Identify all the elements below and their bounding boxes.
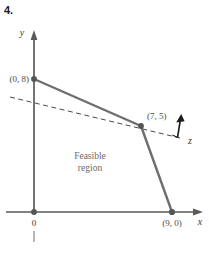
vertex-dot-origin xyxy=(31,209,37,215)
y-axis-arrowhead xyxy=(31,30,38,40)
vertex-dot-9-0 xyxy=(169,209,175,215)
feasible-region-boundary xyxy=(34,79,172,212)
vertex-label-9-0: (9, 0) xyxy=(162,218,182,228)
vertex-dot-0-8 xyxy=(31,76,37,82)
y-axis-label: y xyxy=(19,27,25,38)
linear-programming-plot: y x 0 (0, 8) (7, 5) (9, 0) z Feasible re… xyxy=(0,0,209,267)
vertex-label-0-8: (0, 8) xyxy=(10,74,30,84)
gradient-arrowhead xyxy=(176,114,184,123)
vertex-label-7-5: (7, 5) xyxy=(147,111,167,121)
figure-container: 4. y x 0 (0, 8) xyxy=(0,0,209,267)
objective-gradient-arrow xyxy=(173,114,185,138)
vertex-dot-7-5 xyxy=(138,123,144,129)
origin-label: 0 xyxy=(32,218,37,228)
x-axis-label: x xyxy=(197,216,203,227)
x-axis-arrowhead xyxy=(193,209,203,216)
y-axis xyxy=(31,30,38,212)
feasible-region-label-line2: region xyxy=(78,163,103,173)
feasible-region-label-line1: Feasible xyxy=(74,151,106,161)
objective-label-z: z xyxy=(187,135,192,146)
